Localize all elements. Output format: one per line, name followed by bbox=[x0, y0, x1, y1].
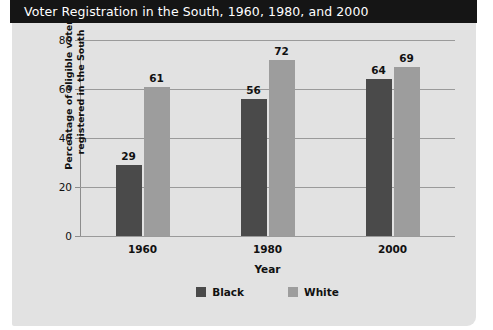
bar-white-1980 bbox=[269, 60, 295, 236]
gridline bbox=[80, 236, 455, 237]
legend-label: White bbox=[304, 286, 339, 298]
legend-label: Black bbox=[212, 286, 244, 298]
bar-value-label: 72 bbox=[261, 45, 303, 57]
y-axis-title-line: Percentage of eligible voters bbox=[63, 7, 75, 177]
bar-black-2000 bbox=[366, 79, 392, 236]
bar-value-label: 61 bbox=[136, 72, 178, 84]
x-axis-tick-label: 1980 bbox=[238, 243, 298, 255]
bar-black-1960 bbox=[116, 165, 142, 236]
legend-item-white: White bbox=[288, 286, 339, 298]
x-axis-tick-label: 2000 bbox=[363, 243, 423, 255]
bar-black-1980 bbox=[241, 99, 267, 236]
legend-swatch-icon bbox=[196, 287, 206, 297]
bar-value-label: 69 bbox=[386, 52, 428, 64]
y-axis-tick bbox=[75, 236, 80, 237]
legend-swatch-icon bbox=[288, 287, 298, 297]
plot-area: 296156726469 bbox=[80, 40, 455, 236]
chart-legend: BlackWhite bbox=[80, 286, 455, 298]
chart-figure: Voter Registration in the South, 1960, 1… bbox=[0, 0, 493, 330]
x-axis-title: Year bbox=[80, 263, 455, 275]
y-axis-tick-label: 20 bbox=[59, 181, 72, 193]
legend-item-black: Black bbox=[196, 286, 244, 298]
y-axis-tick-label: 0 bbox=[65, 230, 72, 242]
bar-white-2000 bbox=[394, 67, 420, 236]
bar-white-1960 bbox=[144, 87, 170, 236]
x-axis-tick-label: 1960 bbox=[113, 243, 173, 255]
